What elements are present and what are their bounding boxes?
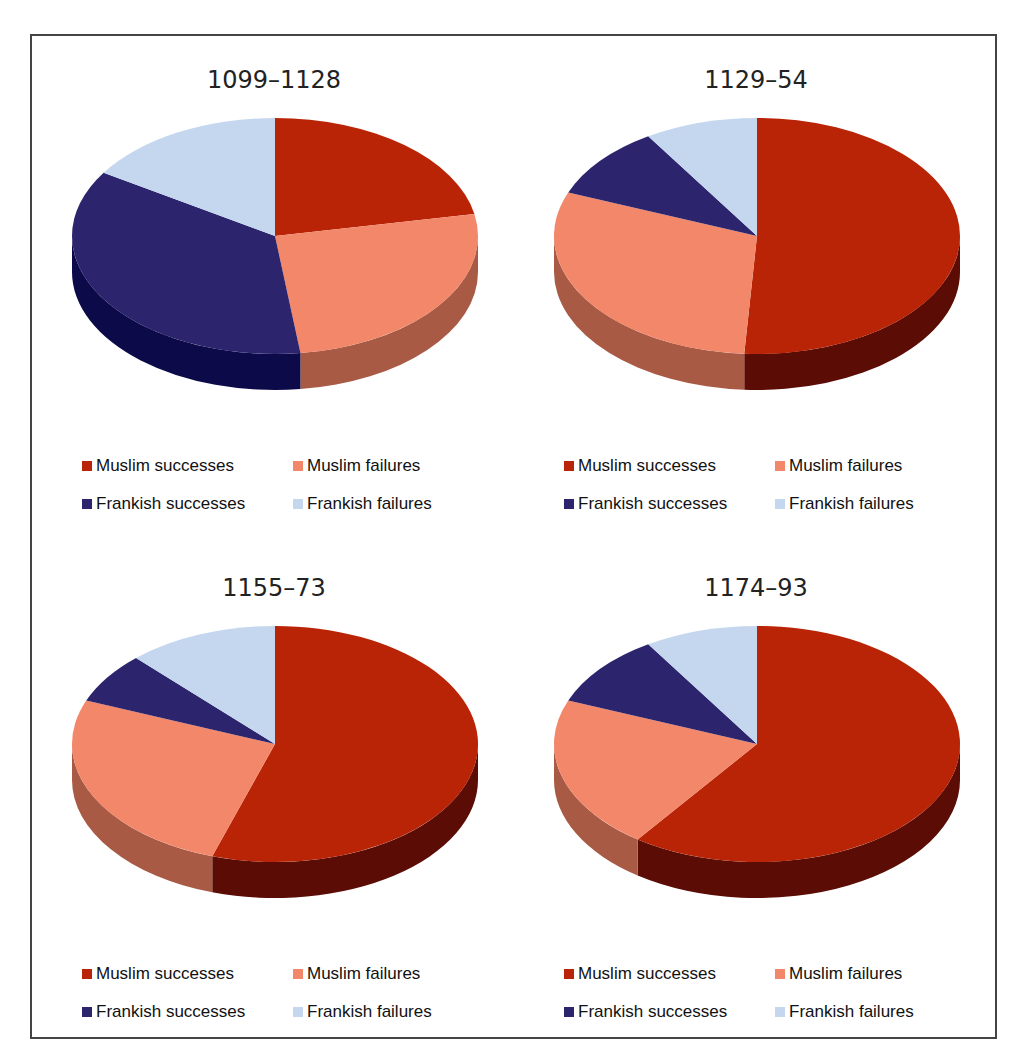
- legend-label: Frankish failures: [307, 1002, 432, 1022]
- pie-top-faces: [72, 626, 478, 862]
- legend-item-muslim-successes: Muslim successes: [564, 456, 716, 476]
- pie-top-faces: [554, 626, 960, 862]
- legend-label: Muslim successes: [96, 456, 234, 476]
- swatch-icon: [564, 1007, 574, 1017]
- swatch-icon: [82, 969, 92, 979]
- swatch-icon: [775, 461, 785, 471]
- legend-label: Frankish failures: [307, 494, 432, 514]
- swatch-icon: [293, 969, 303, 979]
- pie-chart: [514, 544, 998, 964]
- swatch-icon: [564, 499, 574, 509]
- legend-label: Muslim successes: [96, 964, 234, 984]
- legend-label: Muslim successes: [578, 964, 716, 984]
- swatch-icon: [82, 461, 92, 471]
- legend-item-muslim-successes: Muslim successes: [82, 964, 234, 984]
- pie-top-faces: [72, 118, 478, 354]
- legend-label: Muslim successes: [578, 456, 716, 476]
- pie-chart: [514, 36, 998, 456]
- legend-item-frankish-failures: Frankish failures: [775, 494, 914, 514]
- legend-item-frankish-successes: Frankish successes: [564, 1002, 727, 1022]
- swatch-icon: [82, 1007, 92, 1017]
- legend-label: Muslim failures: [789, 964, 902, 984]
- legend-item-frankish-successes: Frankish successes: [82, 1002, 245, 1022]
- swatch-icon: [564, 969, 574, 979]
- swatch-icon: [775, 969, 785, 979]
- legend-label: Muslim failures: [789, 456, 902, 476]
- pie-panel-1155-73: 1155–73 Muslim successes Muslim failures…: [32, 544, 516, 1044]
- legend-label: Muslim failures: [307, 456, 420, 476]
- legend-item-muslim-failures: Muslim failures: [293, 456, 420, 476]
- legend-item-muslim-successes: Muslim successes: [564, 964, 716, 984]
- swatch-icon: [293, 1007, 303, 1017]
- legend-item-frankish-successes: Frankish successes: [564, 494, 727, 514]
- swatch-icon: [293, 499, 303, 509]
- pie-panel-1099-1128: 1099–1128 Muslim successes Muslim failur…: [32, 36, 516, 536]
- legend-item-frankish-successes: Frankish successes: [82, 494, 245, 514]
- legend-item-muslim-failures: Muslim failures: [775, 456, 902, 476]
- swatch-icon: [293, 461, 303, 471]
- legend-label: Frankish failures: [789, 1002, 914, 1022]
- legend-item-muslim-failures: Muslim failures: [293, 964, 420, 984]
- legend-item-muslim-successes: Muslim successes: [82, 456, 234, 476]
- pie-top-faces: [554, 118, 960, 354]
- legend-item-frankish-failures: Frankish failures: [293, 494, 432, 514]
- legend-label: Frankish successes: [578, 494, 727, 514]
- legend-item-frankish-failures: Frankish failures: [775, 1002, 914, 1022]
- legend-label: Frankish successes: [96, 1002, 245, 1022]
- pie-panel-1174-93: 1174–93 Muslim successes Muslim failures…: [514, 544, 998, 1044]
- legend-label: Muslim failures: [307, 964, 420, 984]
- chart-frame: 1099–1128 Muslim successes Muslim failur…: [30, 34, 997, 1039]
- pie-chart: [32, 36, 516, 456]
- legend-label: Frankish successes: [578, 1002, 727, 1022]
- legend-label: Frankish failures: [789, 494, 914, 514]
- swatch-icon: [82, 499, 92, 509]
- pie-panel-1129-54: 1129–54 Muslim successes Muslim failures…: [514, 36, 998, 536]
- legend-item-frankish-failures: Frankish failures: [293, 1002, 432, 1022]
- legend-item-muslim-failures: Muslim failures: [775, 964, 902, 984]
- swatch-icon: [775, 1007, 785, 1017]
- pie-chart: [32, 544, 516, 964]
- swatch-icon: [564, 461, 574, 471]
- swatch-icon: [775, 499, 785, 509]
- legend-label: Frankish successes: [96, 494, 245, 514]
